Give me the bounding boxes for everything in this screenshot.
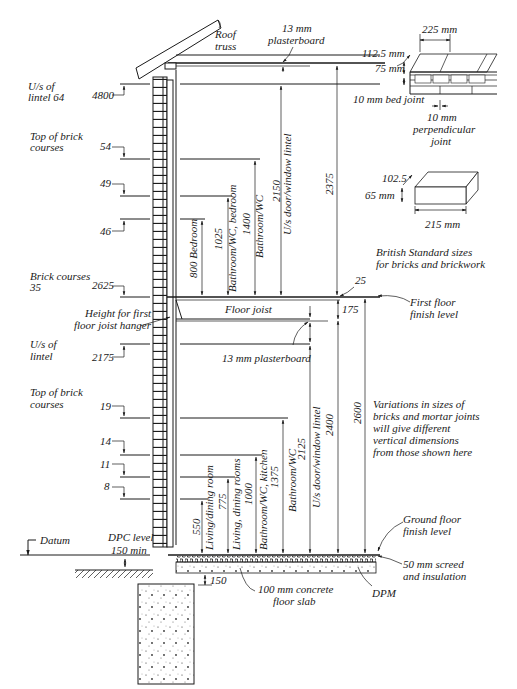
brick-wall — [153, 70, 176, 547]
svg-text:lintel: lintel — [30, 350, 53, 362]
svg-text:from those shown here: from those shown here — [373, 446, 472, 458]
top-brick-lower-label: Top of brick — [30, 386, 84, 398]
svg-text:and insulation: and insulation — [403, 570, 467, 582]
svg-text:courses: courses — [30, 398, 64, 410]
dim-550: 550 — [190, 518, 202, 535]
datum-label: Datum — [39, 534, 70, 546]
inset-perp-joint: 10 mm — [427, 111, 457, 123]
dim-living2-label: Living, dining rooms — [230, 458, 242, 551]
lower-dimension-lines — [202, 299, 365, 553]
screed-label: 50 mm screed — [403, 558, 464, 570]
inset-102-5: 102.5 — [382, 172, 407, 184]
dim-lower-lintel-label: U/s door/window lintel — [310, 407, 322, 508]
slab-label: 100 mm concrete — [258, 583, 333, 595]
inset-225mm: 225 mm — [422, 23, 457, 35]
mark-46: 46 — [100, 225, 112, 237]
first-floor-finish-label: First floor — [409, 296, 456, 308]
dim-living-label: Living/dining room — [203, 465, 215, 551]
dpc-label: DPC level — [107, 531, 154, 543]
dim-800-bedroom: 800 Bedroom — [187, 219, 199, 278]
mark-54: 54 — [100, 140, 112, 152]
wall-section-diagram: Roof truss Floor joist Datum DPC level 1… — [0, 0, 517, 689]
svg-text:Variations in sizes of: Variations in sizes of — [373, 398, 466, 410]
ground-earth — [75, 570, 153, 578]
us-lintel-lower-label: U/s of — [30, 338, 59, 350]
dim-kitchen-label: Bathroom/WC, kitchen — [257, 449, 269, 550]
plasterboard-mid-label: 13 mm plasterboard — [222, 352, 311, 364]
roof-truss-label: Roof — [214, 28, 238, 40]
dim-1400: 1400 — [240, 213, 252, 236]
dim-25: 25 — [355, 274, 367, 286]
dim-2375: 2375 — [323, 173, 335, 196]
inset-bed-joint: 10 mm bed joint — [353, 93, 425, 105]
inset-caption: British Standard sizes — [376, 246, 472, 258]
mark-14: 14 — [100, 435, 112, 447]
dim-2600: 2600 — [351, 402, 363, 425]
svg-text:will give different: will give different — [373, 422, 451, 434]
foundation — [138, 584, 194, 684]
inset-112-5mm: 112.5 mm — [362, 47, 405, 59]
svg-text:floor slab: floor slab — [273, 595, 316, 607]
dim-1375: 1375 — [268, 466, 280, 489]
floor-joist-label: Floor joist — [224, 303, 273, 315]
mark-2625: 2625 — [92, 279, 115, 291]
svg-text:150 min: 150 min — [111, 544, 147, 556]
dim-1000: 1000 — [242, 483, 254, 506]
dim-upper-lintel-label: U/s door/window lintel — [281, 134, 293, 235]
inset-215mm: 215 mm — [425, 218, 460, 230]
dim-2125: 2125 — [295, 438, 307, 461]
ground-floor-slab — [168, 555, 380, 573]
svg-text:joint: joint — [429, 135, 452, 147]
dim-1025: 1025 — [212, 228, 224, 251]
dim-bath-label: Bathroom/WC — [253, 194, 265, 258]
mark-8: 8 — [104, 480, 110, 492]
plasterboard-top-label: 13 mm — [282, 22, 312, 34]
course-marks — [112, 84, 380, 499]
svg-text:finish level: finish level — [410, 308, 458, 320]
svg-text:finish level: finish level — [403, 525, 451, 537]
mark-49: 49 — [100, 177, 112, 189]
svg-text:plasterboard: plasterboard — [267, 34, 325, 46]
roof-truss — [136, 20, 385, 79]
svg-text:courses: courses — [30, 141, 64, 153]
svg-text:lintel 64: lintel 64 — [28, 91, 65, 103]
variations-note: Variations in sizes of bricks and mortar… — [373, 398, 480, 458]
mark-11: 11 — [100, 458, 110, 470]
svg-text:35: 35 — [29, 281, 42, 293]
svg-text:perpendicular: perpendicular — [412, 123, 476, 135]
svg-text:vertical dimensions: vertical dimensions — [373, 434, 459, 446]
svg-text:floor joist hanger: floor joist hanger — [74, 319, 152, 331]
ground-floor-finish-label: Ground floor — [403, 513, 462, 525]
joist-hanger-label: Height for first — [84, 307, 152, 319]
mark-2175: 2175 — [92, 351, 115, 363]
svg-text:bricks and mortar joints: bricks and mortar joints — [373, 410, 480, 422]
dim-175: 175 — [342, 303, 359, 315]
svg-text:truss: truss — [215, 40, 236, 52]
dpm-label: DPM — [371, 587, 397, 599]
dim-2400: 2400 — [323, 414, 335, 437]
dim-775: 775 — [216, 493, 228, 510]
single-brick — [402, 172, 478, 214]
dim-bath-bed-label: Bathroom/WC, bedroom — [226, 185, 238, 292]
mark-19: 19 — [100, 400, 112, 412]
dim-150: 150 — [210, 574, 227, 586]
inset-65mm: 65 mm — [365, 189, 395, 201]
inset-75mm: 75 mm — [375, 62, 405, 74]
mark-4800: 4800 — [92, 89, 115, 101]
svg-text:for bricks and brickwork: for bricks and brickwork — [376, 258, 486, 270]
